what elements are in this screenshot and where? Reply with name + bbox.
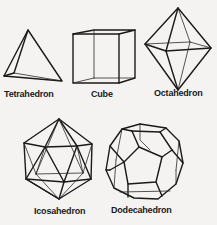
label-dodecahedron: Dodecahedron [111,205,172,215]
octahedron-drawing [145,8,211,90]
cube-drawing [73,30,135,83]
label-octahedron: Octahedron [154,88,203,98]
label-cube: Cube [91,89,113,99]
icosahedron-drawing [24,119,92,199]
platonic-solids-figure: Tetrahedron Cube Octahedron Icosahedron … [0,0,217,225]
tetrahedron-drawing [4,30,62,81]
dodecahedron-drawing [106,124,183,199]
solids-drawing [0,0,217,225]
label-icosahedron: Icosahedron [34,206,85,216]
label-tetrahedron: Tetrahedron [4,89,54,99]
